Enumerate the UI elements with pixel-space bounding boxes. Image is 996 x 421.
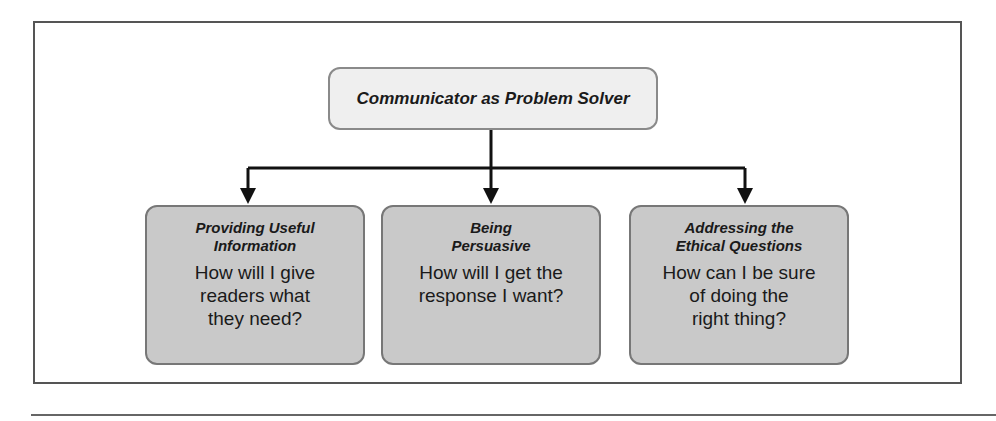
bottom-rule — [31, 414, 996, 416]
root-node: Communicator as Problem Solver — [328, 67, 658, 130]
arrow-down-icon — [737, 188, 753, 204]
child-node-persuasive: Being Persuasive How will I get the resp… — [381, 205, 601, 365]
node-heading: Providing Useful Information — [147, 219, 363, 255]
node-question: How will I give readers what they need? — [147, 261, 363, 330]
node-question: How will I get the response I want? — [383, 261, 599, 307]
child-node-ethical-questions: Addressing the Ethical Questions How can… — [629, 205, 849, 365]
arrow-down-icon — [240, 188, 256, 204]
arrow-down-icon — [483, 188, 499, 204]
root-node-label: Communicator as Problem Solver — [356, 89, 629, 109]
node-heading: Addressing the Ethical Questions — [631, 219, 847, 255]
child-node-useful-information: Providing Useful Information How will I … — [145, 205, 365, 365]
node-heading: Being Persuasive — [383, 219, 599, 255]
node-question: How can I be sure of doing the right thi… — [631, 261, 847, 330]
